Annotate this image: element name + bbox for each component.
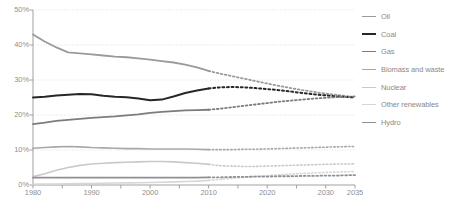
x-tick-label: 2000: [142, 188, 158, 197]
y-tick-label: 50%: [0, 6, 29, 14]
series-forecast-nuclear: [209, 164, 355, 167]
legend-item[interactable]: Biomass and waste: [362, 61, 455, 79]
series-history-coal: [33, 88, 209, 100]
x-tick-label: 2010: [200, 188, 216, 197]
legend-label: Gas: [381, 47, 394, 56]
y-tick-label: 20%: [0, 111, 29, 119]
legend-item[interactable]: Other renewables: [362, 96, 455, 114]
series-history-gas: [33, 110, 209, 124]
legend-item[interactable]: Nuclear: [362, 78, 455, 96]
legend-item[interactable]: Hydro: [362, 114, 455, 132]
y-axis: 0%10%20%30%40%50%: [0, 0, 29, 209]
x-tick-label: 2030: [318, 188, 334, 197]
plot-area: [33, 10, 355, 185]
chart-legend: OilCoalGasBiomass and wasteNuclearOther …: [362, 8, 455, 131]
series-forecast-gas: [209, 96, 355, 109]
series-forecast-oil: [209, 71, 355, 97]
series-history-oil: [33, 35, 209, 71]
tick-marks: [30, 10, 356, 189]
axis-lines: [33, 10, 355, 185]
x-axis: 1980199020002010202020302035: [0, 188, 455, 202]
x-tick-label: 2035: [347, 188, 363, 197]
legend-swatch-line-icon: [362, 122, 376, 123]
legend-swatch-line-icon: [362, 33, 376, 35]
legend-label: Hydro: [381, 118, 401, 127]
legend-label: Nuclear: [381, 83, 406, 92]
legend-swatch-line-icon: [362, 69, 376, 70]
legend-label: Biomass and waste: [381, 65, 444, 74]
x-tick-label: 1990: [83, 188, 99, 197]
x-tick-label: 2020: [259, 188, 275, 197]
legend-swatch-line-icon: [362, 51, 376, 52]
legend-item[interactable]: Oil: [362, 8, 455, 26]
legend-label: Coal: [381, 30, 396, 39]
legend-label: Oil: [381, 12, 390, 21]
series-history-nuclear: [33, 162, 209, 177]
legend-item[interactable]: Gas: [362, 43, 455, 61]
plot-svg: [33, 10, 355, 185]
y-tick-label: 10%: [0, 146, 29, 154]
legend-swatch-line-icon: [362, 16, 376, 17]
legend-item[interactable]: Coal: [362, 26, 455, 44]
energy-mix-share-chart: 0%10%20%30%40%50% 1980199020002010202020…: [0, 0, 455, 209]
y-tick-label: 40%: [0, 41, 29, 49]
legend-swatch-line-icon: [362, 87, 376, 88]
series-history-biomass-and-waste: [33, 147, 209, 150]
x-tick-label: 1980: [25, 188, 41, 197]
series-forecast-biomass-and-waste: [209, 147, 355, 150]
series-lines: [33, 35, 355, 185]
y-tick-label: 30%: [0, 76, 29, 84]
series-history-other-renewables: [33, 180, 209, 184]
series-forecast-hydro: [209, 175, 355, 177]
legend-swatch-line-icon: [362, 104, 376, 105]
gridlines: [33, 10, 355, 150]
series-forecast-coal: [209, 87, 355, 98]
legend-label: Other renewables: [381, 100, 439, 109]
